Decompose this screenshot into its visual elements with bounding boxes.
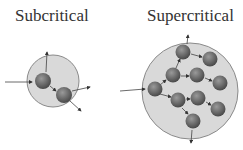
subcritical-mass bbox=[5, 52, 90, 111]
fission-diagram bbox=[0, 0, 243, 150]
supercritical-mass bbox=[120, 35, 238, 143]
